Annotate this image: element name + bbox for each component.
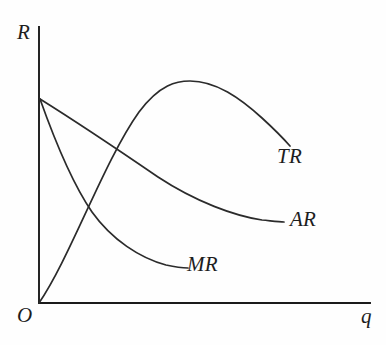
origin-label: O bbox=[17, 305, 32, 326]
total-revenue-curve bbox=[39, 81, 290, 303]
y-axis-label: R bbox=[17, 22, 30, 43]
revenue-curves-figure: R q O TR AR MR bbox=[0, 0, 386, 345]
average-revenue-curve bbox=[40, 99, 284, 222]
marginal-revenue-label: MR bbox=[187, 254, 218, 275]
marginal-revenue-curve bbox=[40, 99, 188, 268]
figure-canvas bbox=[0, 0, 386, 345]
x-axis-label: q bbox=[361, 306, 372, 327]
average-revenue-label: AR bbox=[290, 209, 316, 230]
total-revenue-label: TR bbox=[277, 146, 302, 167]
